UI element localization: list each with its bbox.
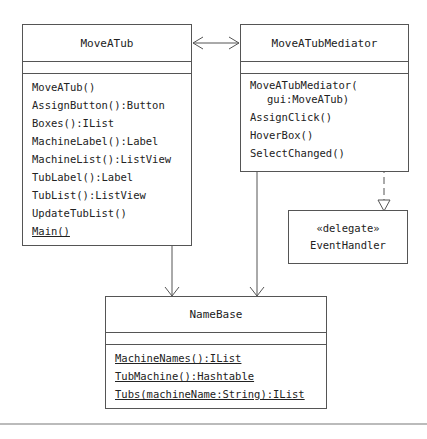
operation: TubList():ListView (32, 186, 191, 204)
operation: UpdateTubList() (32, 204, 191, 222)
operation: TubLabel():Label (32, 168, 191, 186)
static-operation: TubMachine():Hashtable (115, 367, 326, 385)
class-title: NameBase (106, 297, 326, 333)
class-title: EventHandler (289, 237, 407, 254)
static-operation: Tubs(machineName:String):IList (115, 385, 326, 403)
operation: HoverBox() (250, 126, 408, 144)
class-eventhandler[interactable]: «delegate» EventHandler (288, 210, 408, 264)
association-mediator-namebase (250, 172, 264, 296)
class-title: MoveATub (23, 25, 191, 62)
bidirectional-association (193, 37, 239, 49)
operation: SelectChanged() (250, 144, 408, 162)
class-moveatub[interactable]: MoveATub MoveATub() AssignButton():Butto… (22, 24, 192, 246)
class-moveatub-mediator[interactable]: MoveATubMediator MoveATubMediator( gui:M… (240, 24, 409, 172)
attributes-compartment (23, 62, 191, 74)
operations-compartment: MachineNames():IList TubMachine():Hashta… (106, 345, 326, 403)
operation: AssignClick() (250, 108, 408, 126)
constructor-param: gui:MoveATub) (250, 92, 408, 108)
stereotype-label: «delegate» (289, 220, 407, 237)
operations-compartment: MoveATubMediator( gui:MoveATub) AssignCl… (241, 74, 408, 162)
operations-compartment: MoveATub() AssignButton():Button Boxes()… (23, 74, 191, 240)
operation: MachineList():ListView (32, 150, 191, 168)
attributes-compartment (106, 333, 326, 345)
operation: MachineLabel():Label (32, 132, 191, 150)
page-divider (0, 423, 427, 425)
operation: AssignButton():Button (32, 96, 191, 114)
association-moveatub-namebase (165, 246, 179, 296)
class-namebase[interactable]: NameBase MachineNames():IList TubMachine… (105, 296, 327, 409)
static-operation: MachineNames():IList (115, 349, 326, 367)
constructor-line: MoveATubMediator( (250, 78, 408, 92)
operation: Boxes():IList (32, 114, 191, 132)
attributes-compartment (241, 62, 408, 74)
static-operation: Main() (32, 222, 191, 240)
operation: MoveATub() (32, 78, 191, 96)
class-title: MoveATubMediator (241, 25, 408, 62)
